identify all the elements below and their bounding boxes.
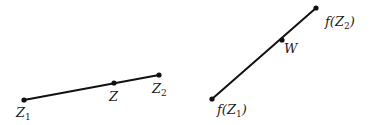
image-segment: f(Z1) W f(Z2): [209, 5, 354, 119]
label-fz2: f(Z2): [324, 14, 355, 31]
label-w: W: [284, 41, 299, 56]
point-z: [111, 80, 116, 85]
point-fz2: [313, 5, 318, 10]
label-z: Z: [108, 89, 119, 104]
complex-mapping-diagram: Z1 Z Z2 f(Z1) W f(Z2): [0, 0, 377, 125]
segment-fz1-fz2: [212, 8, 316, 99]
point-z2: [156, 72, 161, 77]
label-z2: Z2: [151, 81, 167, 98]
point-z1: [21, 97, 26, 102]
label-z1: Z1: [15, 105, 31, 122]
point-fz1: [209, 96, 214, 101]
segment-z1-z2: [24, 75, 159, 100]
label-fz1: f(Z1): [216, 102, 247, 119]
domain-segment: Z1 Z Z2: [15, 72, 167, 122]
